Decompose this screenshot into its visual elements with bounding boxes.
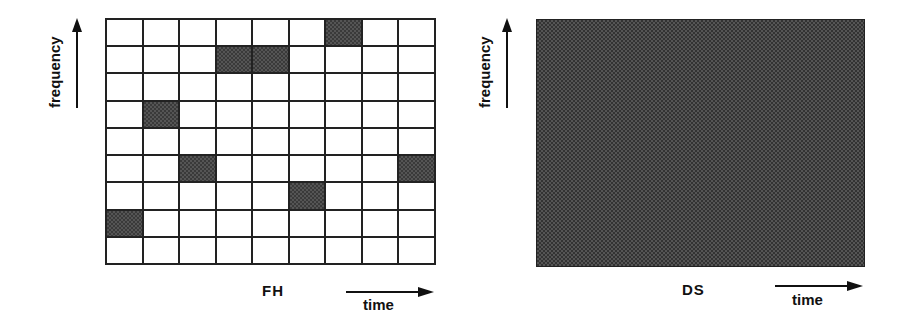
fh-grid-cell: [144, 74, 179, 99]
fh-grid-cell: [363, 74, 398, 99]
fh-grid-cell: [107, 238, 142, 263]
fh-grid-cell: [107, 102, 142, 127]
fh-grid-cell: [180, 183, 215, 208]
fh-grid-cell: [107, 156, 142, 181]
fh-grid-cell: [144, 129, 179, 154]
fh-grid-cell: [144, 238, 179, 263]
fh-time-frequency-grid: [105, 18, 436, 265]
fh-grid-cell: [217, 183, 252, 208]
fh-grid-cell: [253, 156, 288, 181]
fh-grid-cell: [144, 20, 179, 45]
fh-grid-cell: [217, 238, 252, 263]
fh-grid-cell: [290, 74, 325, 99]
fh-grid-cell: [326, 129, 361, 154]
fh-hop-cell-active: [326, 20, 361, 45]
fh-grid-cell: [326, 183, 361, 208]
ds-time-arrow-shaft: [775, 285, 849, 287]
fh-grid-cell: [253, 238, 288, 263]
fh-grid-cell: [290, 156, 325, 181]
fh-grid-cell: [144, 156, 179, 181]
fh-grid-cell: [399, 20, 434, 45]
fh-time-axis-label: time: [363, 296, 394, 313]
fh-grid-cell: [180, 74, 215, 99]
fh-hop-cell-active: [144, 102, 179, 127]
fh-grid-cell: [144, 47, 179, 72]
fh-hop-cell-active: [217, 47, 252, 72]
fh-grid-cell: [180, 238, 215, 263]
fh-title: FH: [262, 282, 284, 299]
fh-grid-cell: [107, 74, 142, 99]
fh-grid-cell: [253, 129, 288, 154]
fh-grid-cell: [399, 102, 434, 127]
ds-frequency-axis-label: frequency: [476, 36, 493, 108]
fh-grid-cell: [253, 20, 288, 45]
ds-time-arrow-head-icon: [847, 281, 863, 291]
fh-grid-cell: [180, 102, 215, 127]
fh-time-arrow-head-icon: [418, 287, 434, 297]
ds-title: DS: [682, 281, 705, 298]
fh-grid-cell: [363, 183, 398, 208]
fh-grid-cell: [290, 47, 325, 72]
fh-grid-cell: [180, 47, 215, 72]
ds-frequency-arrow-shaft: [506, 30, 508, 108]
fh-hop-cell-active: [290, 183, 325, 208]
fh-grid-cell: [363, 102, 398, 127]
fh-frequency-arrow-shaft: [76, 30, 78, 108]
fh-grid-cell: [399, 211, 434, 236]
fh-grid-cell: [253, 74, 288, 99]
fh-hop-cell-active: [107, 211, 142, 236]
fh-hop-cell-active: [399, 156, 434, 181]
fh-grid-cell: [363, 20, 398, 45]
fh-grid-cell: [144, 183, 179, 208]
fh-grid-cell: [107, 47, 142, 72]
fh-grid-cell: [363, 129, 398, 154]
fh-grid-cell: [290, 129, 325, 154]
fh-grid-cell: [326, 211, 361, 236]
fh-grid-cell: [326, 102, 361, 127]
fh-grid-cell: [217, 74, 252, 99]
fh-grid-cell: [363, 211, 398, 236]
fh-grid-cell: [399, 47, 434, 72]
fh-grid-cell: [399, 238, 434, 263]
fh-grid-cell: [180, 20, 215, 45]
fh-grid-cell: [144, 211, 179, 236]
fh-grid-cell: [217, 102, 252, 127]
fh-grid-cell: [326, 156, 361, 181]
fh-grid-cell: [363, 238, 398, 263]
fh-grid-cell: [217, 20, 252, 45]
fh-grid-cell: [107, 20, 142, 45]
fh-grid-cell: [180, 129, 215, 154]
ds-shaded-spectrum: [536, 19, 865, 267]
fh-hop-cell-active: [180, 156, 215, 181]
fh-grid-cell: [217, 129, 252, 154]
fh-grid-cell: [217, 156, 252, 181]
fh-frequency-axis-label: frequency: [46, 36, 63, 108]
fh-grid-cell: [253, 102, 288, 127]
fh-grid-cell: [107, 183, 142, 208]
fh-grid-cell: [399, 74, 434, 99]
fh-time-arrow-shaft: [346, 291, 420, 293]
fh-grid-cell: [180, 211, 215, 236]
fh-grid-cell: [290, 20, 325, 45]
fh-grid-cell: [290, 238, 325, 263]
fh-grid-cell: [363, 47, 398, 72]
fh-grid-cell: [253, 183, 288, 208]
ds-time-axis-label: time: [792, 291, 823, 308]
fh-grid-cell: [253, 211, 288, 236]
fh-diagram: frequency FH time: [0, 0, 450, 335]
fh-grid-cell: [326, 47, 361, 72]
fh-hop-cell-active: [253, 47, 288, 72]
fh-grid-cell: [107, 129, 142, 154]
fh-grid-cell: [399, 129, 434, 154]
fh-grid-cell: [217, 211, 252, 236]
fh-grid-cell: [290, 211, 325, 236]
fh-grid-cell: [290, 102, 325, 127]
ds-diagram: frequency DS time: [450, 0, 904, 335]
fh-grid-cell: [326, 74, 361, 99]
fh-grid-cell: [363, 156, 398, 181]
fh-grid-cell: [399, 183, 434, 208]
fh-grid-cell: [326, 238, 361, 263]
